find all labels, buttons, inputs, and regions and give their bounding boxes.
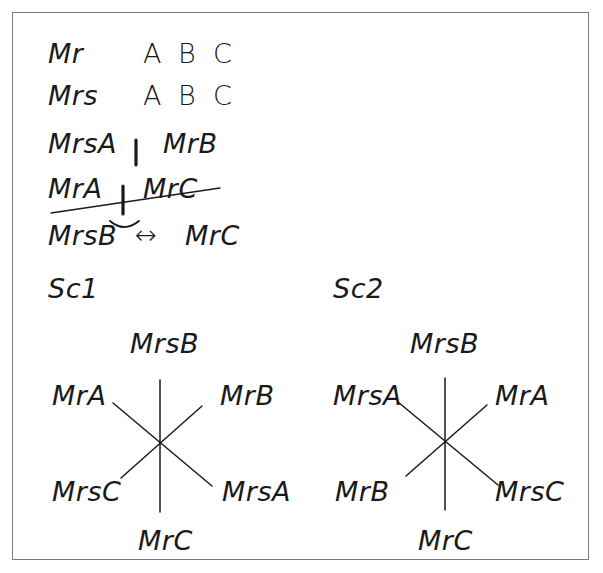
smile-curve	[110, 221, 139, 227]
diagram-strokes	[0, 0, 603, 573]
sc2-star	[398, 378, 498, 510]
sc1-star	[113, 380, 212, 512]
strikethrough-line	[51, 188, 220, 213]
